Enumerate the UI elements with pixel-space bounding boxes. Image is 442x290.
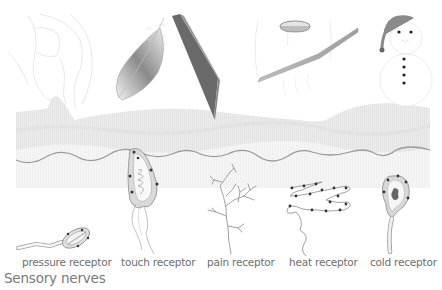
heat-receptor-label: heat receptor bbox=[289, 256, 358, 268]
skin-layers bbox=[16, 96, 430, 188]
diagram-title: Sensory nerves bbox=[4, 270, 106, 286]
pressure-receptor-icon bbox=[18, 224, 93, 253]
snowman-icon bbox=[380, 15, 433, 106]
hand-icon bbox=[8, 14, 92, 108]
pressure-receptor-label: pressure receptor bbox=[22, 256, 112, 268]
feather-icon bbox=[116, 18, 168, 100]
heat-receptor-icon bbox=[287, 182, 350, 256]
touch-receptor-label: touch receptor bbox=[121, 256, 195, 268]
pain-receptor-label: pain receptor bbox=[207, 256, 275, 268]
sensory-nerves-diagram: pressure receptor touch receptor pain re… bbox=[0, 0, 442, 290]
blade-icon bbox=[172, 14, 220, 120]
cold-receptor-label: cold receptor bbox=[370, 256, 437, 268]
epidermis-layer bbox=[16, 96, 430, 152]
diagram-canvas bbox=[0, 0, 442, 290]
iron-icon bbox=[255, 20, 358, 96]
cold-receptor-icon bbox=[382, 175, 409, 252]
